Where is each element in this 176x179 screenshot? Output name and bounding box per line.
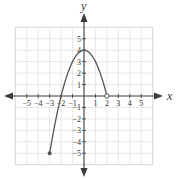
y-tick-label: −2 — [72, 115, 81, 124]
y-tick-label: 1 — [77, 81, 81, 90]
y-tick-label: −5 — [72, 149, 81, 158]
x-axis-left-arrow-icon — [4, 93, 13, 100]
y-tick-label: −3 — [72, 126, 81, 135]
y-tick-label: 5 — [77, 35, 81, 44]
x-tick-label: 2 — [105, 99, 109, 108]
axes — [4, 13, 163, 177]
x-axis-label: x — [166, 89, 173, 103]
function-graph: −5−4−3−2−112345−5−4−3−2−112345 x y — [0, 0, 176, 179]
closed-endpoint — [48, 151, 52, 155]
x-tick-label: −5 — [22, 99, 31, 108]
y-tick-label: −4 — [72, 138, 81, 147]
y-axis-down-arrow-icon — [81, 168, 88, 177]
x-tick-label: −3 — [45, 99, 54, 108]
x-axis-right-arrow-icon — [154, 93, 163, 100]
y-axis-up-arrow-icon — [81, 13, 88, 22]
y-tick-label: 2 — [77, 69, 81, 78]
x-tick-label: 3 — [116, 99, 120, 108]
y-tick-label: −1 — [72, 103, 81, 112]
y-tick-label: 3 — [77, 58, 81, 67]
x-tick-label: 4 — [128, 99, 132, 108]
x-tick-label: −4 — [34, 99, 43, 108]
open-endpoint — [105, 94, 109, 98]
x-tick-label: 1 — [93, 99, 97, 108]
y-axis-label: y — [80, 0, 87, 13]
x-tick-label: 5 — [139, 99, 143, 108]
